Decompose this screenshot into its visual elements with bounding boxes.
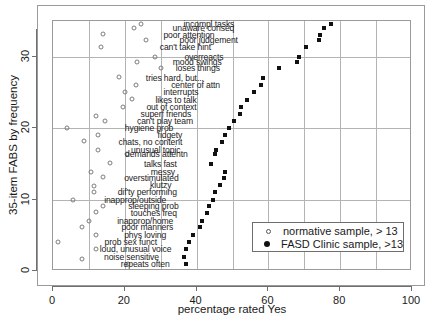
- data-point-normative: [92, 184, 97, 189]
- data-point-clinic: [329, 22, 333, 26]
- y-axis-tick-label: 10: [19, 192, 31, 204]
- scatter-plot-figure: incompl tasksunaware conseqpoor attentio…: [0, 0, 430, 322]
- data-point-normative: [122, 90, 127, 95]
- data-point-clinic: [220, 140, 224, 144]
- legend-entry-normative: normative sample, > 13: [253, 224, 403, 238]
- data-point-clinic: [239, 105, 243, 109]
- open-circle-icon: [253, 229, 283, 234]
- legend-label-clinic: FASD Clinic sample, >13: [281, 238, 403, 250]
- y-axis-tick: [32, 127, 37, 128]
- data-point-normative: [95, 147, 100, 152]
- data-point-clinic: [205, 211, 209, 215]
- x-axis-title: percentage rated Yes: [178, 303, 287, 315]
- data-point-clinic: [261, 76, 265, 80]
- gridline-vertical: [233, 21, 234, 269]
- data-point-normative: [94, 114, 99, 119]
- item-label: loses things: [176, 63, 220, 73]
- x-axis-tick-label: 0: [49, 294, 55, 306]
- gridline-vertical: [89, 21, 90, 269]
- data-point-normative: [101, 175, 106, 180]
- data-point-clinic: [223, 133, 227, 137]
- data-point-normative: [65, 126, 70, 131]
- y-axis-tick-label: 30: [19, 50, 31, 62]
- y-axis-tick: [32, 199, 37, 200]
- y-axis-tick: [32, 270, 37, 271]
- data-point-normative: [133, 82, 138, 87]
- gridline-horizontal: [53, 57, 410, 58]
- x-axis-tick: [411, 286, 412, 291]
- legend-label-normative: normative sample, > 13: [283, 225, 398, 237]
- data-point-clinic: [238, 112, 242, 116]
- filled-circle-icon: [253, 241, 281, 247]
- data-point-clinic: [297, 55, 301, 59]
- data-point-clinic: [218, 183, 222, 187]
- data-point-normative: [81, 139, 86, 144]
- data-point-clinic: [252, 90, 256, 94]
- data-point-clinic: [317, 38, 321, 42]
- gridline-horizontal: [53, 128, 410, 129]
- x-axis-tick: [339, 286, 340, 291]
- x-axis-tick: [52, 286, 53, 291]
- data-point-normative: [95, 132, 100, 137]
- y-axis-title: 35-item FABS by frequency: [7, 75, 19, 215]
- data-point-normative: [94, 233, 99, 238]
- x-axis-tick: [196, 286, 197, 291]
- x-axis-tick-label: 100: [402, 294, 420, 306]
- data-point-normative: [88, 169, 93, 174]
- data-point-normative: [99, 44, 104, 49]
- data-point-clinic: [277, 66, 281, 70]
- item-label: can't take hint: [160, 42, 211, 52]
- x-axis-tick-label: 20: [118, 294, 130, 306]
- y-axis-tick-label: 20: [19, 121, 31, 133]
- data-point-normative: [121, 104, 126, 109]
- data-point-clinic: [211, 198, 215, 202]
- data-point-clinic: [200, 219, 204, 223]
- data-point-clinic: [207, 204, 211, 208]
- y-axis-line: [36, 29, 37, 270]
- data-point-clinic: [198, 225, 202, 229]
- data-point-normative: [138, 21, 143, 26]
- x-axis-tick-label: 80: [333, 294, 345, 306]
- data-point-normative: [117, 75, 122, 80]
- data-point-normative: [92, 190, 97, 195]
- y-axis-tick: [32, 56, 37, 57]
- data-point-clinic: [184, 262, 188, 266]
- data-point-normative: [103, 119, 108, 124]
- data-point-normative: [101, 31, 106, 36]
- data-point-normative: [94, 210, 99, 215]
- data-point-clinic: [222, 176, 226, 180]
- data-point-normative: [131, 26, 136, 31]
- data-point-normative: [79, 256, 84, 261]
- data-point-clinic: [187, 240, 191, 244]
- data-point-normative: [86, 219, 91, 224]
- item-label: repeats often: [121, 259, 170, 269]
- data-point-clinic: [232, 119, 236, 123]
- data-point-normative: [135, 59, 140, 64]
- data-point-clinic: [304, 45, 308, 49]
- data-point-normative: [153, 54, 158, 59]
- data-point-clinic: [182, 255, 186, 259]
- data-point-normative: [70, 197, 75, 202]
- data-point-normative: [56, 240, 61, 245]
- data-point-clinic: [322, 26, 326, 30]
- data-point-clinic: [295, 60, 299, 64]
- x-axis-tick: [124, 286, 125, 291]
- data-point-normative: [108, 161, 113, 166]
- legend-entry-clinic: FASD Clinic sample, >13: [253, 237, 403, 251]
- data-point-normative: [79, 224, 84, 229]
- data-point-clinic: [191, 233, 195, 237]
- x-axis-tick: [267, 286, 268, 291]
- data-point-clinic: [213, 152, 217, 156]
- data-point-clinic: [223, 170, 227, 174]
- y-axis-tick-label: 0: [19, 267, 31, 273]
- data-point-clinic: [209, 162, 213, 166]
- data-point-clinic: [184, 247, 188, 251]
- data-point-normative: [94, 246, 99, 251]
- data-point-clinic: [259, 83, 263, 87]
- data-point-normative: [129, 96, 134, 101]
- item-label: demands attentn: [125, 149, 188, 159]
- data-point-normative: [144, 38, 149, 43]
- data-point-clinic: [227, 126, 231, 130]
- x-axis-line: [52, 286, 411, 287]
- data-point-clinic: [245, 98, 249, 102]
